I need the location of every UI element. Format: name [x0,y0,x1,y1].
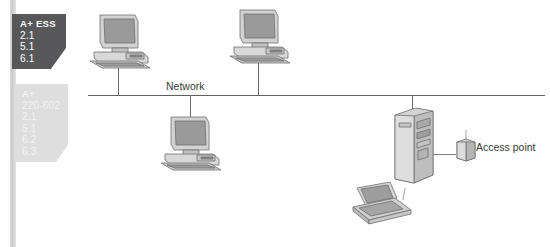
wireless-access-point-icon [452,129,480,163]
objective-item: 5.1 [20,41,60,53]
objective-item: 2.1 [20,30,60,42]
network-diagram: A+ ESS 2.1 5.1 6.1 A+ 220-602 2.1 5.1 6.… [0,0,550,247]
objective-item: 6.2 [22,134,62,146]
device-server-tower[interactable] [390,105,438,187]
objective-item: 5.1 [22,123,62,135]
objective-item: 220-602 [22,100,62,112]
wireless-laptop-icon [345,180,415,236]
device-laptop[interactable] [345,180,415,236]
objective-tab-title: A+ ESS [20,18,60,30]
drop-cable-workstation-1 [118,68,119,96]
tower-server-icon [390,105,438,187]
objective-item: 2.1 [22,111,62,123]
access-point-label: Access point [476,141,536,153]
desktop-computer-icon [226,7,296,65]
objective-item: 6.3 [22,146,62,158]
device-workstation-2[interactable] [226,7,296,65]
device-access-point[interactable] [452,129,480,163]
device-workstation-1[interactable] [86,12,156,70]
network-label: Network [166,80,205,92]
objective-tab-a-plus-220-602[interactable]: A+ 220-602 2.1 5.1 6.2 6.3 [14,84,68,162]
device-workstation-3[interactable] [157,114,227,172]
network-backbone-line [88,95,545,96]
desktop-computer-icon [86,12,156,70]
objective-tab-title: A+ [22,88,62,100]
desktop-computer-icon [157,114,227,172]
objective-tab-a-plus-ess[interactable]: A+ ESS 2.1 5.1 6.1 [12,14,66,69]
drop-cable-workstation-2 [258,63,259,96]
objective-item: 6.1 [20,53,60,65]
